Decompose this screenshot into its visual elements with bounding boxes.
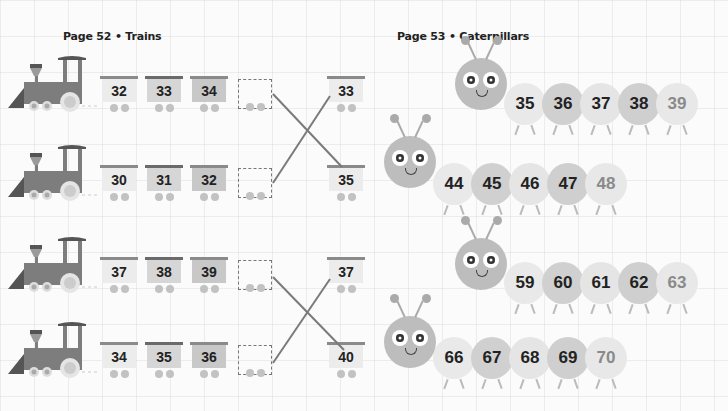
caterpillar-segment: 66 — [433, 337, 475, 379]
segment-number: 62 — [630, 273, 649, 293]
caterpillar-segment: 35 — [504, 83, 546, 125]
segment-number: 45 — [483, 174, 502, 194]
segment-number: 36 — [554, 94, 573, 114]
segment-number: 35 — [516, 94, 535, 114]
caterpillar-segment: 46 — [509, 163, 551, 205]
caterpillar-segment: 69 — [547, 337, 589, 379]
caterpillar-segment: 68 — [509, 337, 551, 379]
caterpillar-head-icon — [455, 58, 507, 110]
segment-number: 63 — [668, 273, 687, 293]
segment-number: 46 — [521, 174, 540, 194]
caterpillar-segment: 48 — [585, 163, 627, 205]
segment-number: 68 — [521, 348, 540, 368]
caterpillar-segment: 62 — [618, 262, 660, 304]
caterpillar-head-icon — [455, 238, 507, 290]
caterpillar-segment: 39 — [656, 83, 698, 125]
segment-number: 44 — [445, 174, 464, 194]
segment-number: 59 — [516, 273, 535, 293]
caterpillar-segment: 59 — [504, 262, 546, 304]
segment-number: 66 — [445, 348, 464, 368]
segment-number: 69 — [559, 348, 578, 368]
caterpillar-head-icon — [384, 316, 436, 368]
segment-number: 47 — [559, 174, 578, 194]
caterpillar-segment: 45 — [471, 163, 513, 205]
caterpillar-segment: 63 — [656, 262, 698, 304]
segment-number: 39 — [668, 94, 687, 114]
caterpillar-segment: 37 — [580, 83, 622, 125]
segment-number: 38 — [630, 94, 649, 114]
caterpillar-segment: 61 — [580, 262, 622, 304]
caterpillar-segment: 67 — [471, 337, 513, 379]
segment-number: 70 — [597, 348, 616, 368]
caterpillar-segment: 38 — [618, 83, 660, 125]
caterpillar-head-icon — [384, 136, 436, 188]
caterpillar-segment: 60 — [542, 262, 584, 304]
caterpillar-segment: 47 — [547, 163, 589, 205]
segment-number: 48 — [597, 174, 616, 194]
segment-number: 37 — [592, 94, 611, 114]
caterpillar-segment: 36 — [542, 83, 584, 125]
caterpillar-segment: 70 — [585, 337, 627, 379]
segment-number: 60 — [554, 273, 573, 293]
segment-number: 61 — [592, 273, 611, 293]
segment-number: 67 — [483, 348, 502, 368]
caterpillar-segment: 44 — [433, 163, 475, 205]
